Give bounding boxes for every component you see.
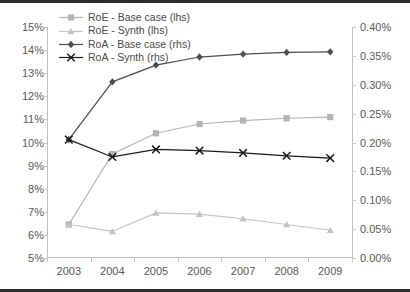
left-axis-tick-mark: [43, 166, 47, 167]
x-axis-tick-mark: [308, 258, 309, 262]
right-axis-tick-mark: [352, 114, 356, 115]
chart-legend: RoE - Base case (lhs)RoE - Synth (lhs)Ro…: [58, 11, 191, 65]
x-axis-tick-2009: 2009: [308, 265, 352, 277]
right-axis-tick-mark: [352, 85, 356, 86]
legend-item-0[interactable]: RoE - Base case (lhs): [58, 11, 191, 24]
right-axis-tick-mark: [352, 200, 356, 201]
legend-cross-icon: [58, 51, 84, 64]
left-axis-tick-mark: [43, 73, 47, 74]
series-3: [65, 136, 334, 162]
right-axis-tick-mark: [352, 171, 356, 172]
legend-item-1[interactable]: RoE - Synth (lhs): [58, 24, 191, 37]
left-axis-tick-mark: [43, 27, 47, 28]
data-point: [327, 114, 333, 120]
left-axis-tick-mark: [43, 143, 47, 144]
x-axis-tick-mark: [352, 258, 353, 262]
legend-item-label: RoA - Base case (rhs): [88, 38, 191, 51]
left-axis-tick-mark: [43, 189, 47, 190]
series-line: [69, 140, 330, 158]
data-point: [283, 49, 289, 56]
x-axis-tick-2006: 2006: [178, 265, 222, 277]
data-point: [284, 115, 290, 121]
left-axis-tick-mark: [43, 96, 47, 97]
left-axis-tick-mark: [43, 119, 47, 120]
left-axis-tick-mark: [43, 50, 47, 51]
right-axis-tick-mark: [352, 229, 356, 230]
data-point: [240, 50, 246, 57]
data-point: [153, 130, 159, 136]
x-axis-tick-mark: [134, 258, 135, 262]
data-point: [196, 121, 202, 127]
x-axis-tick-mark: [221, 258, 222, 262]
x-axis-tick-2003: 2003: [47, 265, 91, 277]
x-axis-tick-2004: 2004: [90, 265, 134, 277]
legend-item-3[interactable]: RoA - Synth (rhs): [58, 51, 191, 64]
right-axis-tick-mark: [352, 27, 356, 28]
legend-item-label: RoE - Synth (lhs): [88, 24, 168, 37]
legend-item-label: RoE - Base case (lhs): [88, 11, 190, 24]
right-axis-tick-mark: [352, 56, 356, 57]
series-line: [69, 117, 330, 224]
data-point: [196, 53, 202, 60]
legend-item-label: RoA - Synth (rhs): [88, 51, 169, 64]
series-1: [65, 210, 334, 235]
data-point: [327, 48, 333, 55]
x-axis-tick-2005: 2005: [134, 265, 178, 277]
right-axis-tick-mark: [352, 143, 356, 144]
legend-triangle-icon: [58, 25, 84, 38]
x-axis-tick-2007: 2007: [221, 265, 265, 277]
legend-square-icon: [58, 11, 84, 24]
x-axis-tick-mark: [91, 258, 92, 262]
chart-figure: 5%6%7%8%9%10%11%12%13%14%15% 0.00%0.05%0…: [0, 0, 410, 292]
left-axis-tick-mark: [43, 235, 47, 236]
x-axis-tick-mark: [265, 258, 266, 262]
legend-item-2[interactable]: RoA - Base case (rhs): [58, 38, 191, 51]
x-axis-tick-mark: [47, 258, 48, 262]
left-axis-tick-mark: [43, 212, 47, 213]
x-axis-tick-2008: 2008: [265, 265, 309, 277]
data-point: [240, 117, 246, 123]
series-0: [66, 114, 334, 228]
x-axis-tick-mark: [178, 258, 179, 262]
legend-diamond-icon: [58, 38, 84, 51]
